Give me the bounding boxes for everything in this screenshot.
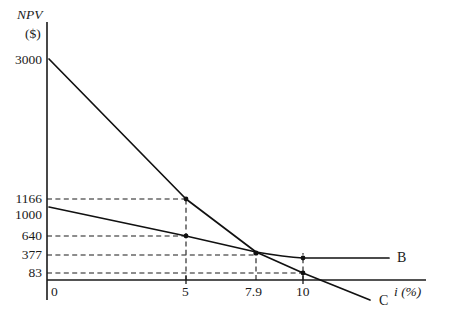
curve-label-c: C [379, 294, 388, 308]
x-tick-label-5: 5 [182, 285, 189, 299]
y-tick-label-640: 640 [0, 229, 42, 243]
x-tick-label-79: 7.9 [245, 285, 262, 299]
y-tick-label-83: 83 [0, 266, 42, 280]
y-tick-label-1166: 1166 [0, 192, 42, 206]
curve-b [49, 207, 389, 258]
y-axis-title-line2: ($) [25, 27, 41, 41]
y-tick-label-1000: 1000 [0, 208, 42, 222]
curve-label-b: B [397, 251, 406, 265]
x-tick-label-0: 0 [51, 285, 58, 299]
y-tick-label-3000: 3000 [0, 53, 42, 67]
data-point-intersection-79 [253, 250, 258, 255]
y-tick-label-377: 377 [0, 248, 42, 262]
data-point-c-5 [184, 197, 189, 202]
data-point-b-10 [301, 256, 306, 261]
data-point-b-5 [184, 234, 189, 239]
curve-c [49, 59, 370, 300]
x-axis-title: i (%) [394, 285, 421, 299]
data-point-c-10 [301, 271, 306, 276]
x-tick-label-10: 10 [296, 285, 310, 299]
y-axis-title-line1: NPV [17, 8, 43, 22]
chart-canvas [0, 0, 463, 323]
npv-vs-interest-rate-chart: NPV ($) 3000 1166 1000 640 377 83 0 5 7.… [0, 0, 463, 323]
